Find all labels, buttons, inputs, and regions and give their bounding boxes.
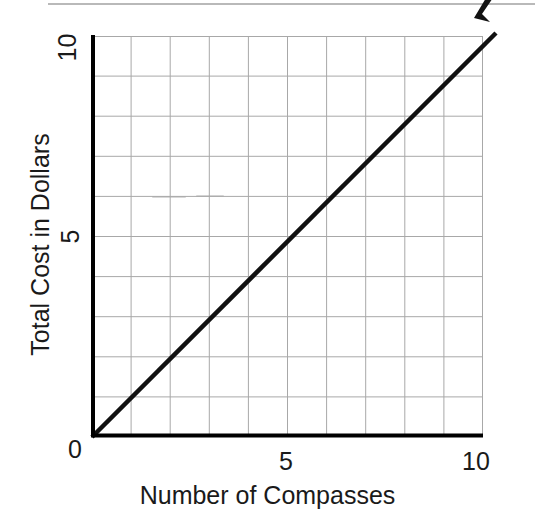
plot-area (92, 36, 483, 437)
chart-figure: 0 5 10 5 10 Number of Compasses Total Co… (0, 0, 535, 519)
y-tick-label-10: 10 (55, 34, 80, 62)
scan-artifact-line (48, 3, 535, 5)
y-tick-label-0: 0 (68, 437, 82, 462)
y-tick-label-5: 5 (58, 230, 83, 244)
plot-svg (92, 36, 483, 437)
x-axis-title: Number of Compasses (0, 483, 535, 508)
x-tick-label-5: 5 (279, 449, 293, 474)
data-series-line (92, 0, 516, 437)
x-tick-label-10: 10 (462, 449, 490, 474)
y-axis-title: Total Cost in Dollars (28, 105, 53, 385)
